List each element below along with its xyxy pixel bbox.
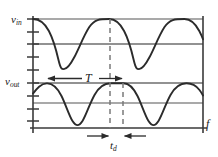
vin-label-subscript: in xyxy=(16,18,22,27)
figure-canvas xyxy=(0,0,218,157)
vin-axis-label: vin xyxy=(11,14,22,26)
delay-label: td xyxy=(110,140,117,152)
period-label-text: T xyxy=(85,71,92,85)
delay-label-subscript: d xyxy=(113,144,117,153)
frequency-axis-label: f xyxy=(206,118,209,130)
vout-axis-label: vout xyxy=(5,76,19,88)
peak-marker-lines xyxy=(110,19,123,128)
period-label: T xyxy=(85,72,92,84)
vout-label-subscript: out xyxy=(10,80,20,89)
vout-waveform xyxy=(33,83,203,125)
axes xyxy=(30,16,207,133)
waveform-figure: vin vout T td f xyxy=(0,0,218,157)
frequency-label-text: f xyxy=(206,117,209,131)
